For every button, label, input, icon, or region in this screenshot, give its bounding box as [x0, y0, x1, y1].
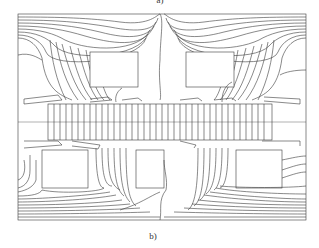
flux-plot	[0, 0, 319, 248]
caption-b: b)	[133, 231, 173, 241]
center-divider-top	[159, 14, 161, 100]
slot-top-right	[186, 52, 234, 87]
slot-bottom-right	[236, 150, 282, 188]
flux-lines-top-left	[18, 14, 160, 100]
slot-top-left	[90, 52, 138, 87]
flux-lines-bottom-right	[164, 148, 306, 217]
slot-bottom-left	[42, 150, 88, 188]
slot-bottom-center	[136, 150, 164, 188]
flux-lines-top-right	[164, 14, 306, 100]
